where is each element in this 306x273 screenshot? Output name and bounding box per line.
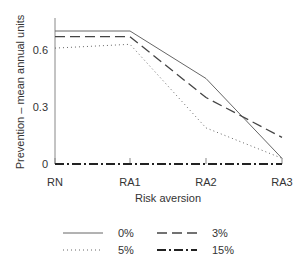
legend-label: 0%: [118, 227, 134, 239]
y-tick-label: 0.3: [33, 101, 48, 113]
x-tick-label: RA1: [119, 176, 140, 188]
x-axis-label: Risk aversion: [135, 192, 201, 204]
x-tick-label: RA3: [271, 176, 292, 188]
legend-label: 3%: [212, 227, 228, 239]
plot-area: RNRA1RA2RA3 00.30.6: [33, 18, 293, 188]
y-axis-label: Prevention – mean annual units: [14, 14, 26, 169]
chart: RNRA1RA2RA3 00.30.6 Risk aversion Preven…: [0, 0, 306, 273]
legend-label: 5%: [118, 244, 134, 256]
legend-label: 15%: [212, 244, 234, 256]
x-tick-label: RN: [47, 176, 63, 188]
series-line-5%: [55, 44, 282, 158]
series-line-0%: [55, 31, 282, 158]
legend: 0%3%5%15%: [63, 227, 234, 256]
x-tick-label: RA2: [195, 176, 216, 188]
y-tick-label: 0: [42, 158, 48, 170]
y-tick-label: 0.6: [33, 44, 48, 56]
